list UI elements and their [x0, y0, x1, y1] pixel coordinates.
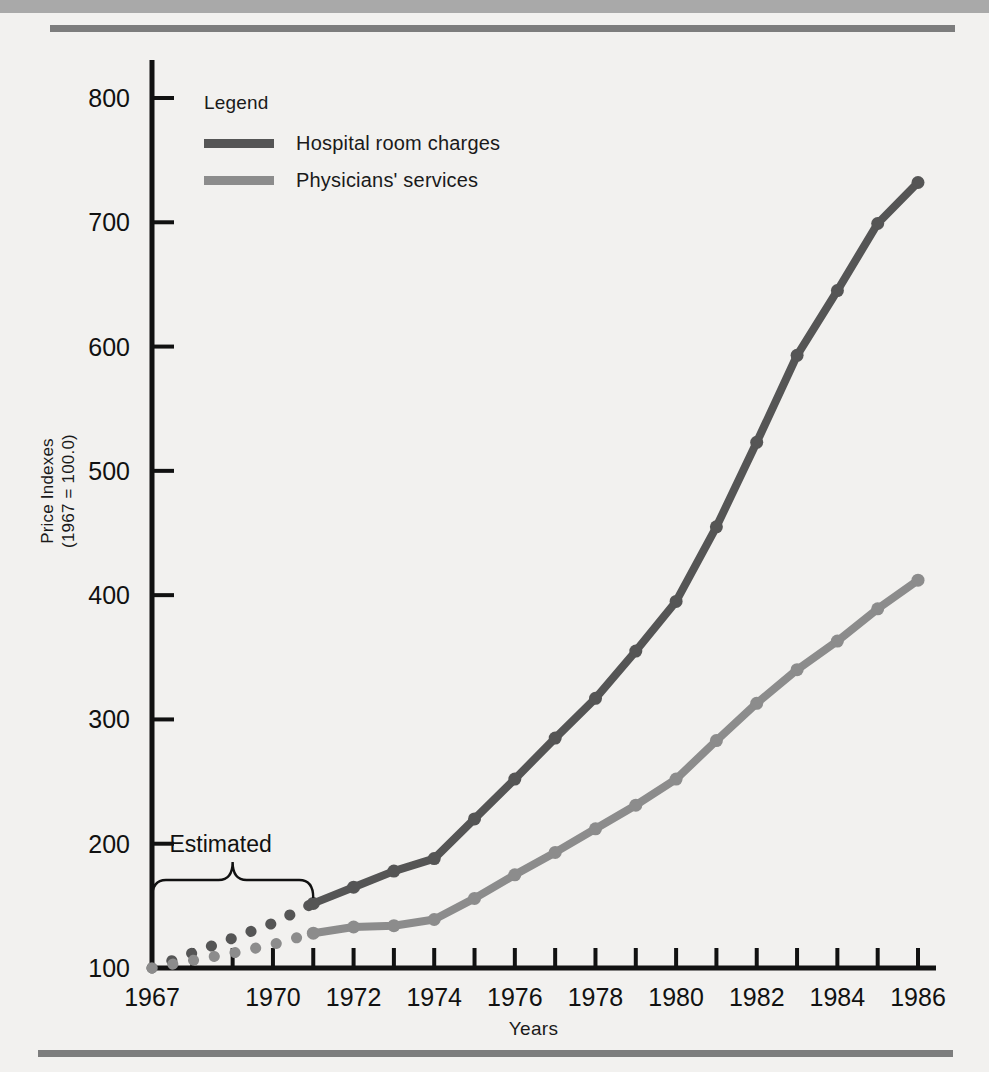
legend-label-hospital: Hospital room charges — [296, 132, 500, 155]
y-tick-label: 200 — [88, 830, 130, 858]
chart-figure: 1002003004005006007008001967197019721974… — [0, 0, 989, 1072]
data-point — [387, 865, 400, 878]
legend-label-physicians: Physicians' services — [296, 169, 478, 192]
x-axis-title: Years — [0, 1018, 989, 1040]
data-point — [508, 773, 521, 786]
data-point — [670, 773, 683, 786]
data-point — [347, 921, 360, 934]
data-point — [750, 697, 763, 710]
legend-swatch-hospital — [204, 139, 274, 148]
data-point — [428, 913, 441, 926]
x-tick-label: 1984 — [810, 983, 866, 1011]
data-point — [307, 927, 320, 940]
data-point — [428, 852, 441, 865]
x-tick-label: 1976 — [487, 983, 543, 1011]
legend-swatch-physicians — [204, 176, 274, 185]
x-tick-label: 1986 — [890, 983, 946, 1011]
legend-title: Legend — [204, 92, 500, 114]
estimated-label: Estimated — [169, 831, 271, 857]
data-point — [387, 919, 400, 932]
data-point — [912, 176, 925, 189]
y-tick-label: 700 — [88, 208, 130, 236]
data-point — [871, 602, 884, 615]
legend: Legend Hospital room charges Physicians'… — [204, 92, 500, 206]
data-point — [750, 436, 763, 449]
data-point — [871, 217, 884, 230]
x-tick-label: 1974 — [406, 983, 462, 1011]
data-point — [629, 645, 642, 658]
data-point — [549, 846, 562, 859]
y-axis-title-line1: Price Indexes — [37, 391, 58, 591]
data-point — [791, 663, 804, 676]
data-point — [670, 595, 683, 608]
x-tick-label: 1978 — [568, 983, 624, 1011]
x-tick-label: 1970 — [245, 983, 301, 1011]
data-point — [629, 799, 642, 812]
data-point — [912, 574, 925, 587]
x-tick-label: 1972 — [326, 983, 382, 1011]
data-point — [831, 635, 844, 648]
series-line-0 — [313, 183, 918, 904]
x-tick-label: 1982 — [729, 983, 785, 1011]
y-tick-label: 300 — [88, 705, 130, 733]
data-point — [791, 349, 804, 362]
data-point — [710, 734, 723, 747]
y-tick-label: 100 — [88, 954, 130, 982]
data-point — [468, 892, 481, 905]
data-point — [710, 520, 723, 533]
legend-item-physicians: Physicians' services — [204, 169, 500, 192]
y-tick-label: 500 — [88, 457, 130, 485]
data-point — [549, 732, 562, 745]
legend-item-hospital: Hospital room charges — [204, 132, 500, 155]
series-line-1 — [313, 580, 918, 933]
data-point — [589, 822, 602, 835]
data-point — [468, 812, 481, 825]
estimated-brace — [152, 862, 313, 898]
y-tick-label: 800 — [88, 84, 130, 112]
x-axis-title-text: Years — [509, 1018, 558, 1040]
y-tick-label: 600 — [88, 333, 130, 361]
y-axis-title-line2: (1967 = 100.0) — [58, 391, 79, 591]
data-point — [831, 284, 844, 297]
y-tick-label: 400 — [88, 581, 130, 609]
x-tick-label: 1967 — [124, 983, 180, 1011]
data-point — [307, 897, 320, 910]
data-point — [508, 868, 521, 881]
y-axis-title: Price Indexes (1967 = 100.0) — [37, 391, 79, 591]
data-point — [589, 692, 602, 705]
data-point — [347, 881, 360, 894]
x-tick-label: 1980 — [648, 983, 704, 1011]
